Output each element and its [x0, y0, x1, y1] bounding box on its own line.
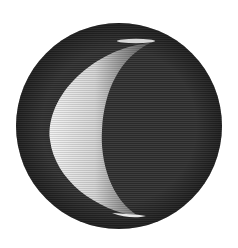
top-horn-highlight	[117, 39, 155, 43]
moon-engraving	[0, 0, 238, 248]
